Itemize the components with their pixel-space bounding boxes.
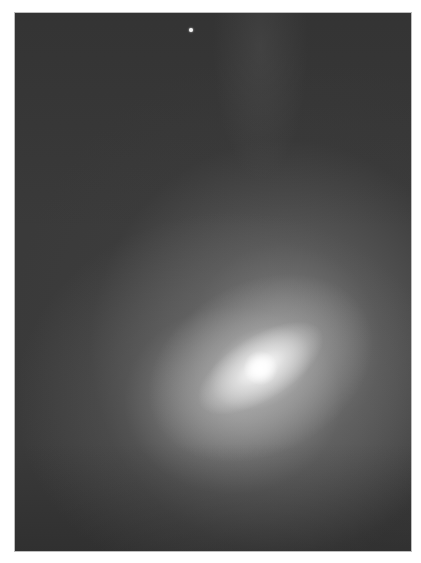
- star-point: [189, 28, 193, 32]
- astronomical-photo: [14, 12, 412, 552]
- vignette: [15, 13, 411, 551]
